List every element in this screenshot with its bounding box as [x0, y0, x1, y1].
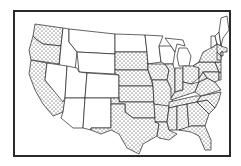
state-az-blank — [61, 98, 85, 128]
state-co-blank — [85, 73, 119, 98]
state-me-blank — [219, 16, 229, 46]
state-nd-blank — [115, 34, 147, 52]
state-in-stippled — [175, 68, 183, 92]
state-fl-stippled — [179, 126, 211, 150]
state-ne-stippled — [115, 70, 153, 86]
state-wy-blank — [77, 52, 115, 74]
us-map — [15, 12, 229, 155]
state-nm-blank — [83, 98, 111, 130]
state-ks-stippled — [119, 86, 154, 102]
state-de-stippled — [219, 72, 221, 80]
map-frame — [13, 10, 231, 157]
state-ms-stippled — [167, 106, 177, 130]
state-mt-blank — [69, 29, 115, 54]
state-ar-stippled — [154, 104, 169, 122]
state-ia-stippled — [148, 64, 169, 80]
state-ri-stippled — [221, 52, 223, 56]
state-sd-stippled — [115, 52, 148, 70]
